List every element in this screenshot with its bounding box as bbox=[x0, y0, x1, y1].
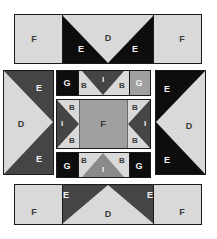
seam-line bbox=[129, 71, 130, 95]
center-middle-strip bbox=[56, 99, 151, 149]
seam-line bbox=[79, 100, 80, 148]
quilt-block-diagram: F E D E F E D E E D E G B I B G B I bbox=[0, 0, 217, 239]
top-border-strip bbox=[14, 14, 202, 64]
patch-I-triangle bbox=[82, 71, 124, 95]
left-side-unit bbox=[3, 70, 54, 175]
left-unit-D-triangle bbox=[4, 71, 53, 174]
patch-I-triangle-right bbox=[128, 100, 150, 148]
patch-I-triangle bbox=[82, 153, 124, 177]
patch-G-right bbox=[129, 71, 150, 95]
patch-G-left bbox=[57, 71, 78, 95]
right-side-unit bbox=[155, 70, 206, 175]
right-unit-D-triangle bbox=[156, 71, 205, 174]
patch-I-triangle-left bbox=[57, 100, 79, 148]
seam-line bbox=[62, 185, 63, 224]
seam-line bbox=[78, 71, 79, 95]
center-top-strip bbox=[56, 70, 151, 96]
center-bottom-strip bbox=[56, 152, 151, 178]
seam-line bbox=[78, 153, 79, 177]
seam-line bbox=[62, 15, 63, 63]
top-strip-D-triangle bbox=[62, 15, 154, 63]
bottom-border-strip bbox=[14, 184, 202, 225]
seam-line bbox=[153, 15, 154, 63]
patch-F-center bbox=[79, 100, 128, 148]
patch-G-right bbox=[129, 153, 150, 177]
seam-line bbox=[127, 100, 128, 148]
bottom-strip-D-triangle bbox=[62, 185, 154, 224]
patch-G-left bbox=[57, 153, 78, 177]
seam-line bbox=[153, 185, 154, 224]
seam-line bbox=[129, 153, 130, 177]
